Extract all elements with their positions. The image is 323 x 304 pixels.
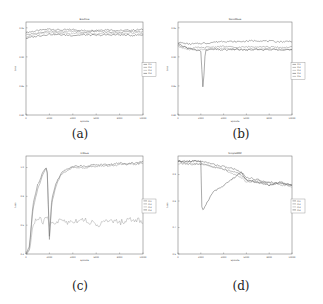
caption-c: (c) bbox=[60, 279, 100, 293]
series-line bbox=[26, 161, 143, 254]
chart-d-svg: SimpleMDP0200040006000800010000Episode0.… bbox=[163, 150, 323, 275]
series-line bbox=[26, 217, 143, 254]
chart-panel-d: SimpleMDP0200040006000800010000Episode0.… bbox=[163, 150, 323, 275]
chart-panel-b: NanoMaze0200040006000800010000Episode0.8… bbox=[163, 0, 323, 125]
y-axis-label: Loss bbox=[14, 202, 17, 208]
chart-title: SimpleMDP bbox=[228, 152, 242, 155]
chart-title: BoxFlow bbox=[80, 18, 90, 21]
x-tick-label: 6000 bbox=[244, 256, 250, 259]
y-tick-label: 0.9 bbox=[173, 173, 177, 176]
legend-entry: m4 bbox=[148, 209, 152, 212]
legend-entry: m5 bbox=[297, 75, 301, 78]
y-tick-label: 0.8 bbox=[173, 200, 177, 203]
x-tick-label: 8000 bbox=[117, 256, 123, 259]
y-tick-label: 0.85 bbox=[19, 85, 24, 88]
y-tick-label: 0.80 bbox=[171, 114, 176, 117]
chart-title: X-Maze bbox=[80, 152, 89, 155]
x-tick-label: 0 bbox=[177, 256, 179, 259]
y-axis-label: Loss bbox=[14, 65, 17, 71]
chart-title: NanoMaze bbox=[229, 18, 242, 21]
chart-c-svg: X-Maze0200040006000800010000Episode0.40.… bbox=[0, 150, 160, 275]
series-line bbox=[178, 161, 292, 186]
x-axis-label: Episode bbox=[80, 259, 89, 262]
series-line bbox=[178, 160, 292, 209]
y-tick-label: 0.90 bbox=[171, 56, 176, 59]
x-tick-label: 6000 bbox=[93, 256, 99, 259]
x-axis-label: Episode bbox=[80, 120, 89, 123]
y-tick-label: 1.0 bbox=[21, 166, 25, 169]
y-tick-label: 0.85 bbox=[171, 85, 176, 88]
series-line bbox=[178, 40, 292, 45]
caption-b: (b) bbox=[221, 127, 261, 141]
series-line bbox=[26, 163, 143, 254]
y-tick-label: 0.6 bbox=[173, 253, 177, 256]
caption-a: (a) bbox=[60, 127, 100, 141]
x-tick-label: 2000 bbox=[198, 256, 204, 259]
x-tick-label: 10000 bbox=[289, 256, 297, 259]
y-tick-label: 0.95 bbox=[19, 27, 24, 30]
y-tick-label: 0.7 bbox=[173, 226, 177, 229]
x-tick-label: 4000 bbox=[221, 117, 227, 120]
x-tick-label: 4000 bbox=[221, 256, 227, 259]
x-tick-label: 2000 bbox=[47, 256, 53, 259]
chart-b-svg: NanoMaze0200040006000800010000Episode0.8… bbox=[163, 0, 323, 125]
legend-entry: m4 bbox=[297, 209, 301, 212]
series-line bbox=[178, 45, 292, 49]
y-tick-label: 0.8 bbox=[21, 195, 25, 198]
chart-panel-c: X-Maze0200040006000800010000Episode0.40.… bbox=[0, 150, 160, 275]
x-tick-label: 0 bbox=[177, 117, 179, 120]
chart-panel-a: BoxFlow0200040006000800010000Episode0.80… bbox=[0, 0, 160, 125]
chart-a-svg: BoxFlow0200040006000800010000Episode0.80… bbox=[0, 0, 160, 125]
y-tick-label: 0.6 bbox=[21, 224, 25, 227]
x-axis-label: Episode bbox=[231, 120, 240, 123]
x-tick-label: 10000 bbox=[140, 117, 148, 120]
x-tick-label: 10000 bbox=[289, 117, 297, 120]
x-tick-label: 0 bbox=[25, 256, 27, 259]
y-tick-label: 0.80 bbox=[19, 114, 24, 117]
x-tick-label: 6000 bbox=[93, 117, 99, 120]
plot-frame bbox=[26, 22, 143, 115]
x-axis-label: Episode bbox=[231, 259, 240, 262]
x-tick-label: 4000 bbox=[70, 117, 76, 120]
x-tick-label: 0 bbox=[25, 117, 27, 120]
x-tick-label: 8000 bbox=[117, 117, 123, 120]
y-tick-label: 0.90 bbox=[19, 56, 24, 59]
x-tick-label: 8000 bbox=[266, 256, 272, 259]
x-tick-label: 4000 bbox=[70, 256, 76, 259]
caption-d: (d) bbox=[221, 279, 261, 293]
x-tick-label: 2000 bbox=[198, 117, 204, 120]
x-tick-label: 8000 bbox=[266, 117, 272, 120]
y-tick-label: 0.4 bbox=[21, 253, 25, 256]
x-tick-label: 10000 bbox=[140, 256, 148, 259]
x-tick-label: 6000 bbox=[244, 117, 250, 120]
y-axis-label: Loss bbox=[166, 202, 169, 208]
series-line bbox=[178, 163, 292, 187]
plot-frame bbox=[178, 22, 292, 115]
x-tick-label: 2000 bbox=[47, 117, 53, 120]
y-axis-label: Loss bbox=[166, 65, 169, 71]
y-tick-label: 0.95 bbox=[171, 27, 176, 30]
plot-frame bbox=[178, 156, 292, 254]
series-line bbox=[26, 34, 143, 39]
legend-entry: m4 bbox=[148, 72, 152, 75]
